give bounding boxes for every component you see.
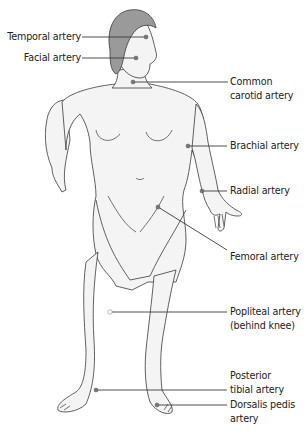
label-posterior-tibial-line1: Posterior — [230, 370, 271, 382]
pulse-dot-femoral — [156, 205, 160, 209]
label-femoral-artery: Femoral artery — [230, 251, 299, 263]
label-posterior-tibial-line2: tibial artery — [230, 384, 284, 396]
label-facial-artery: Facial artery — [4, 52, 81, 64]
pulse-dot-temporal — [144, 35, 148, 39]
label-dorsalis-pedis-line1: Dorsalis pedis — [230, 399, 295, 411]
pulse-dot-facial — [134, 56, 138, 60]
right-arm — [192, 104, 242, 231]
label-temporal-artery: Temporal artery — [4, 31, 81, 43]
pulse-dot-popliteal — [108, 310, 112, 314]
label-dorsalis-pedis-line2: artery — [230, 413, 258, 425]
left-leg — [58, 252, 98, 412]
label-popliteal-line1: Popliteal artery — [230, 306, 301, 318]
right-leg — [145, 270, 176, 414]
torso — [62, 84, 218, 290]
pulse-dot-carotid — [131, 80, 135, 84]
label-common-carotid-line2: carotid artery — [230, 90, 293, 102]
pulse-dot-brachial — [186, 144, 190, 148]
pulse-dot-tibial — [94, 388, 98, 392]
pulse-dot-dorsalis — [155, 403, 159, 407]
label-common-carotid-line1: Common — [230, 76, 272, 88]
pulse-points-diagram: Temporal artery Facial artery Common car… — [0, 0, 307, 437]
label-brachial-artery: Brachial artery — [230, 140, 299, 152]
label-popliteal-line2: (behind knee) — [230, 320, 295, 332]
label-radial-artery: Radial artery — [230, 185, 290, 197]
pulse-dot-radial — [200, 189, 204, 193]
